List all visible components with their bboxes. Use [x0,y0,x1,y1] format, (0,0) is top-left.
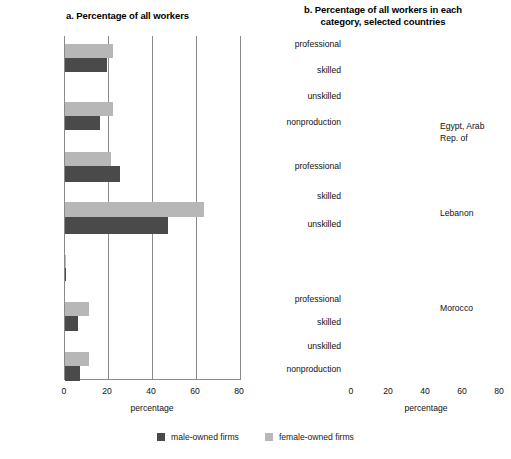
bar-morocco-male [65,217,168,234]
bar-egypt-female [65,44,113,58]
panel-a-plot-area [64,36,241,380]
legend: male-owned firms female-owned firms [0,432,511,442]
xtick-b-80: 80 [487,386,511,396]
category-label-egypt-nonproduction: nonproduction [221,117,341,128]
bar-lebanon-female [65,152,111,166]
legend-swatch-male-icon [157,433,165,441]
xtick-a-0: 0 [52,386,76,396]
bar-yemen-male [65,366,80,381]
category-label-egypt-professional: professional [221,39,341,50]
bar-egypt-male [65,58,107,72]
category-label-lebanon-professional: professional [221,161,341,172]
category-label-morocco-skilled: skilled [221,317,341,328]
category-label-morocco-nonproduction: nonproduction [221,364,341,375]
group-label-morocco: Morocco [440,302,473,314]
legend-label-female: female-owned firms [279,432,354,442]
bar-jordan-male [65,116,100,130]
category-label-morocco-unskilled: unskilled [221,341,341,352]
bar-jordan-female [65,102,113,116]
bar-yemen-female [65,352,89,366]
xtick-a-60: 60 [183,386,207,396]
xtick-a-80: 80 [227,386,251,396]
category-label-egypt-skilled: skilled [221,65,341,76]
legend-swatch-female-icon [265,433,273,441]
xtick-b-20: 20 [376,386,400,396]
panel-b-axis-title: percentage [366,403,486,413]
legend-label-male: male-owned firms [171,432,239,442]
xtick-a-20: 20 [95,386,119,396]
panel-a-title: a. Percentage of all workers [0,10,255,22]
bar-lebanon-male [65,166,120,182]
category-label-lebanon-unskilled: unskilled [221,219,341,230]
xtick-a-40: 40 [139,386,163,396]
category-label-egypt-unskilled: unskilled [221,91,341,102]
group-label-lebanon: Lebanon [440,207,473,219]
panel-a-axis-title: percentage [92,403,212,413]
bar-syria-male [65,316,78,331]
panel-b-title: b. Percentage of all workers in each cat… [255,4,511,28]
bar-syria-female [65,302,89,316]
bar-saudi-arabia-male [65,268,66,281]
category-label-lebanon-skilled: skilled [221,191,341,202]
bar-saudi-arabia-female [65,255,66,268]
figure-container: a. Percentage of all workers Egypt, Arab… [0,0,511,459]
category-label-morocco-professional: professional [221,294,341,305]
xtick-b-60: 60 [450,386,474,396]
legend-item-male-owned-firms: male-owned firms [157,432,239,442]
panel-b-percentage-by-category: b. Percentage of all workers in each cat… [255,0,511,420]
group-label-egypt: Egypt, Arab Rep. of [440,120,484,144]
legend-item-female-owned-firms: female-owned firms [265,432,354,442]
xtick-b-40: 40 [413,386,437,396]
xtick-b-0: 0 [339,386,363,396]
bar-morocco-female [65,202,204,217]
panel-a-percentage-of-all-workers: a. Percentage of all workers Egypt, Arab… [0,0,255,420]
